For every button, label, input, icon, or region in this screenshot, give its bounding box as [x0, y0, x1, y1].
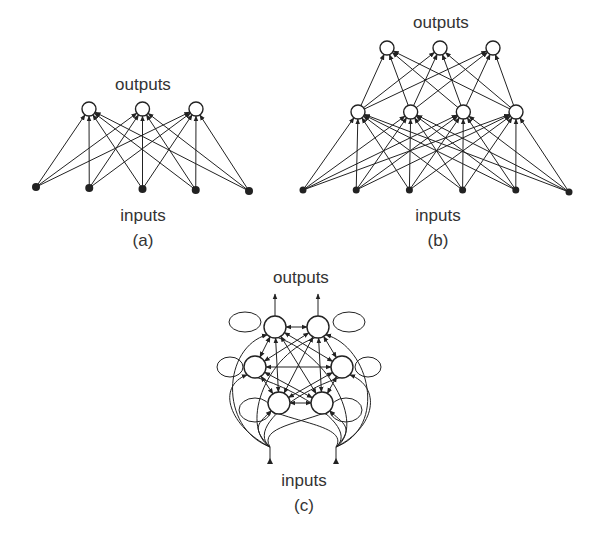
recurrent-connection	[284, 333, 332, 362]
connection-arrow	[365, 114, 569, 192]
connection-arrow	[389, 55, 410, 112]
input-node	[85, 184, 93, 192]
connection-arrow	[469, 116, 569, 192]
connection-arrow	[356, 116, 457, 190]
self-loop	[229, 312, 261, 332]
panel-b-multilayer-network: outputs inputs (b)	[300, 13, 573, 250]
input-node	[32, 183, 40, 191]
output-unit	[380, 41, 394, 55]
connection-arrow	[303, 114, 509, 190]
connection-arrow	[89, 113, 190, 188]
connection-arrow	[520, 118, 569, 192]
connection-arrow	[36, 115, 85, 187]
recurrent-unit	[264, 316, 286, 338]
recurrent-unit	[268, 392, 290, 414]
connection-arrow	[95, 113, 196, 190]
connection-arrow	[89, 115, 138, 188]
connection-arrow	[358, 52, 434, 112]
panel-b-outputs-label: outputs	[413, 13, 469, 32]
connection-arrow	[146, 115, 195, 190]
recurrent-connection	[324, 336, 337, 357]
connection-arrow	[463, 54, 490, 112]
input-node	[353, 187, 360, 194]
panel-a-connections	[36, 112, 249, 191]
connection-arrow	[143, 115, 193, 189]
panel-b-inputs-label: inputs	[415, 206, 460, 225]
panel-c-recurrent-network: outputs inputs (c)	[217, 268, 381, 515]
recurrent-unit	[307, 316, 329, 338]
input-node	[406, 187, 413, 194]
self-loop	[330, 398, 362, 422]
input-arrowhead-icon	[267, 458, 273, 464]
connection-arrow	[467, 118, 516, 190]
connection-arrow	[463, 119, 464, 190]
output-unit	[136, 102, 150, 116]
connection-arrow	[358, 54, 384, 112]
input-node	[139, 185, 147, 193]
panel-b-caption: (b)	[428, 231, 449, 250]
input-node	[459, 187, 466, 194]
panel-a-caption: (a)	[133, 231, 154, 250]
recurrent-unit	[244, 356, 266, 378]
connection-arrow	[411, 52, 488, 112]
panel-a-single-layer-network: outputs inputs (a)	[32, 75, 253, 250]
output-unit	[82, 102, 96, 116]
connection-arrow	[93, 115, 143, 189]
input-node	[245, 187, 253, 195]
connection-arrow	[303, 118, 354, 190]
neural-network-figure: outputs inputs (a) outputs inputs (b) ou…	[0, 0, 599, 533]
output-unit	[486, 41, 500, 55]
panel-b-connections	[303, 51, 569, 192]
connection-arrow	[411, 54, 437, 112]
connection-arrow	[356, 118, 406, 190]
panel-c-inputs-label: inputs	[281, 471, 326, 490]
panel-c-caption: (c)	[294, 496, 314, 515]
connection-arrow	[356, 119, 358, 190]
connection-arrow	[200, 115, 249, 191]
hidden-unit	[456, 105, 470, 119]
recurrent-connection	[260, 337, 270, 357]
panel-c-outputs-label: outputs	[273, 268, 329, 287]
output-unit	[433, 41, 447, 55]
connection-arrow	[36, 113, 137, 187]
input-connection	[268, 411, 330, 447]
connection-arrow	[409, 118, 459, 190]
hidden-unit	[404, 105, 418, 119]
connection-arrow	[409, 116, 510, 190]
input-node	[192, 186, 200, 194]
connection-arrow	[148, 113, 249, 191]
connection-arrow	[95, 112, 249, 191]
recurrent-unit	[311, 392, 333, 414]
connection-arrow	[36, 112, 190, 187]
connection-arrow	[409, 119, 410, 190]
input-node	[566, 189, 573, 196]
input-arrowhead-icon	[333, 458, 339, 464]
self-loop	[333, 312, 365, 332]
recurrent-unit	[331, 356, 353, 378]
input-node	[300, 187, 307, 194]
hidden-unit	[509, 105, 523, 119]
panel-a-outputs-label: outputs	[115, 75, 171, 94]
panel-a-inputs-label: inputs	[120, 206, 165, 225]
hidden-unit	[351, 105, 365, 119]
connection-arrow	[417, 115, 569, 192]
output-unit	[189, 102, 203, 116]
panel-c-connections	[217, 294, 381, 464]
self-loop	[239, 398, 271, 422]
input-connection	[233, 335, 270, 447]
self-loop	[355, 357, 381, 377]
input-node	[512, 187, 519, 194]
connection-arrow	[415, 118, 463, 190]
